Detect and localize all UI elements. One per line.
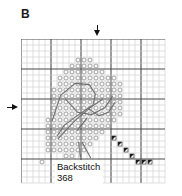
top-center-arrow-icon: [94, 30, 100, 36]
panel-letter: B: [21, 8, 30, 20]
left-center-arrow-icon: [12, 104, 18, 110]
backstitch-legend: Backstitch 368: [55, 160, 103, 184]
cross-stitch-chart-figure: B Backstitch 368: [0, 0, 182, 196]
legend-floss-code: 368: [57, 172, 100, 183]
legend-title: Backstitch: [57, 161, 100, 172]
